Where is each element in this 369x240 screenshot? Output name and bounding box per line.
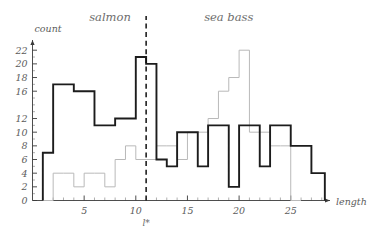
y-axis-title: count [35, 23, 62, 34]
x-tick-label: 5 [81, 205, 87, 216]
y-tick-label: 12 [15, 113, 27, 124]
histogram-figure: 51015202502468101216182022countlength sa… [0, 0, 369, 240]
salmon-histogram-series [43, 50, 301, 200]
y-tick-label: 0 [21, 195, 27, 206]
y-tick-label: 6 [21, 154, 27, 165]
x-tick-label: 25 [284, 205, 297, 216]
y-tick-label: 4 [20, 168, 27, 179]
annotation-l: l* [142, 218, 150, 228]
y-tick-label: 18 [15, 72, 27, 83]
y-tick-label: 16 [15, 86, 27, 97]
axis-tick-labels: 51015202502468101216182022countlength [14, 23, 366, 216]
axis-lines [30, 40, 330, 203]
y-tick-label: 2 [20, 181, 27, 192]
y-tick-label: 10 [15, 127, 27, 138]
x-tick-label: 15 [181, 205, 193, 216]
annotation-salmon: salmon [89, 10, 131, 24]
x-tick-label: 10 [130, 205, 142, 216]
y-tick-label: 8 [21, 140, 27, 151]
y-tick-label: 20 [14, 58, 27, 69]
seabass-histogram-series [43, 57, 325, 200]
figure-annotations: salmonsea bassl* [89, 10, 253, 228]
chart-canvas: 51015202502468101216182022countlength sa… [0, 0, 369, 240]
x-tick-label: 20 [232, 205, 245, 216]
annotation-seabass: sea bass [204, 10, 253, 24]
x-axis-title: length [336, 196, 367, 207]
y-tick-label: 22 [14, 45, 27, 56]
